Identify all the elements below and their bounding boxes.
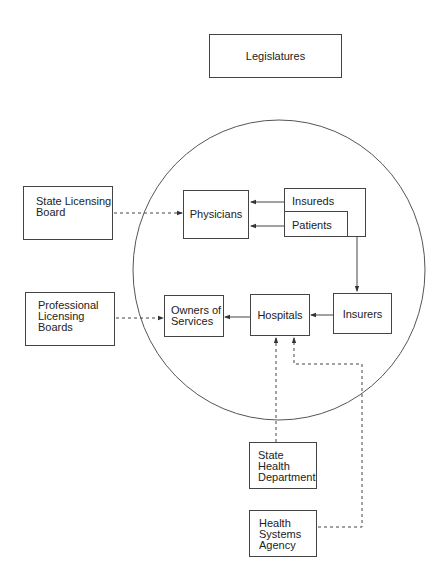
node-label: Insureds [292,196,334,207]
node-patients: Patients [284,211,348,237]
system-boundary-circle [133,120,425,420]
node-label: State Health Department [258,450,315,483]
node-hospitals: Hospitals [250,294,310,336]
node-label: Health Systems Agency [259,518,301,551]
node-state-licensing-board: State Licensing Board [23,186,113,240]
node-physicians: Physicians [183,190,249,239]
node-legislatures: Legislatures [209,34,342,78]
edge-hsa-hospitals [294,338,362,527]
node-label: Physicians [184,209,248,220]
node-health-systems-agency: Health Systems Agency [249,510,317,557]
node-state-health-department: State Health Department [249,442,317,489]
node-label: State Licensing Board [36,196,111,218]
node-label: Legislatures [210,51,341,62]
node-label: Patients [292,220,332,231]
node-professional-licensing-boards: Professional Licensing Boards [25,292,115,346]
node-owners-of-services: Owners of Services [164,295,224,337]
node-label: Owners of Services [171,305,221,327]
node-label: Insurers [334,309,391,320]
node-insurers: Insurers [333,293,392,334]
node-label: Professional Licensing Boards [38,300,99,333]
node-label: Hospitals [251,310,309,321]
